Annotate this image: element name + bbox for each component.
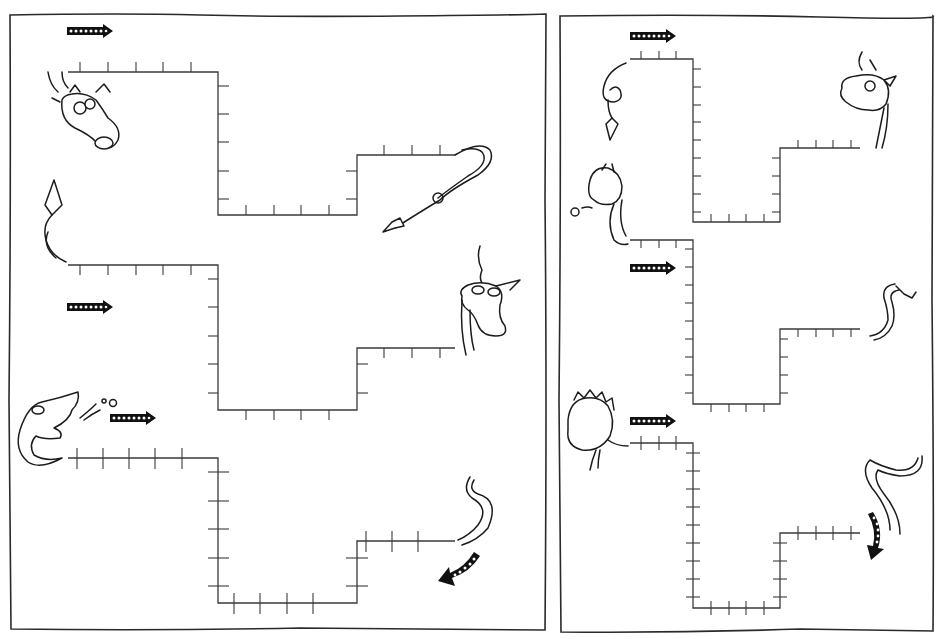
ruler-path-left-2 [68, 265, 455, 420]
worksheet-page [0, 0, 941, 639]
ruler-path-left-3 [68, 448, 455, 614]
dotted-arrow-icon [630, 414, 676, 428]
dotted-arrow-icon [630, 261, 676, 275]
curved-dotted-arrow-icon [867, 512, 884, 560]
dragon-tail-spiral-down-icon [603, 63, 626, 140]
dragon-tail-curl-icon [458, 477, 492, 545]
dragon-tail-up-icon [45, 180, 66, 262]
dragon-head-unicorn-icon [461, 246, 520, 355]
dragon-head-spiky-icon [568, 390, 628, 470]
dragon-head-smoke-icon [571, 164, 628, 245]
dotted-arrow-icon [630, 29, 676, 43]
dragon-head-fire-breathing-icon [18, 392, 116, 465]
dotted-arrow-icon [110, 411, 156, 425]
dragon-tail-spiral-icon [383, 146, 492, 232]
dotted-arrow-icon [67, 24, 113, 38]
dotted-arrow-icon [67, 300, 113, 314]
ruler-path-right-3 [630, 436, 860, 615]
curved-dotted-arrow-icon [438, 552, 480, 586]
dragon-tail-s-icon [870, 284, 916, 340]
ruler-path-left-1 [68, 62, 455, 215]
dragon-head-smiling-icon [841, 52, 896, 148]
dragon-head-antlers-icon [48, 72, 119, 149]
ruler-path-right-1 [630, 51, 860, 222]
